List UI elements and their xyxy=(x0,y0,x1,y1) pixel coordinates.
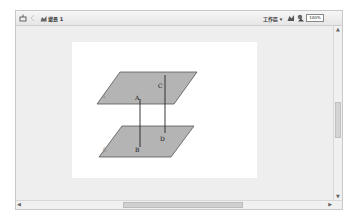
vertical-scroll-thumb[interactable] xyxy=(335,102,341,138)
plane-beta xyxy=(99,126,194,157)
point-d-label: D xyxy=(160,135,165,142)
scene-label: 場景 1 xyxy=(48,15,63,22)
point-a-label: A xyxy=(134,94,140,101)
stage[interactable]: α β A B C D xyxy=(72,42,257,178)
vertical-scrollbar[interactable]: ▲ ▼ xyxy=(333,26,342,200)
zoom-input[interactable]: 100% xyxy=(306,14,324,22)
scroll-left-arrow[interactable]: ◀ xyxy=(17,201,21,208)
beta-label: β xyxy=(103,146,107,154)
workspace-label: 工作區 ▾ xyxy=(263,15,282,22)
arrow-left-icon[interactable] xyxy=(30,13,36,23)
stage-area[interactable]: α β A B C D xyxy=(16,26,333,200)
point-c-label: C xyxy=(158,82,163,89)
edit-bar: 場景 1 工作區 ▾ 100% xyxy=(16,11,342,26)
point-b-label: B xyxy=(135,146,140,153)
workspace-menu[interactable]: 工作區 ▾ xyxy=(263,13,282,23)
geometry-figure: α β A B C D xyxy=(72,42,257,178)
zoom-control[interactable]: 100% xyxy=(306,13,324,23)
scroll-right-arrow[interactable]: ▶ xyxy=(328,201,332,208)
scroll-down-arrow[interactable]: ▼ xyxy=(336,193,340,200)
plane-alpha xyxy=(97,72,197,104)
edit-scene-icon[interactable] xyxy=(297,13,305,23)
edit-symbol-icon[interactable] xyxy=(287,13,295,23)
flash-editor-window: 場景 1 工作區 ▾ 100% α β xyxy=(15,10,343,210)
scene-icon xyxy=(40,15,47,22)
scroll-up-arrow[interactable]: ▲ xyxy=(336,26,340,33)
scene-breadcrumb[interactable]: 場景 1 xyxy=(40,13,63,23)
horizontal-scroll-thumb[interactable] xyxy=(123,202,243,208)
horizontal-scrollbar[interactable]: ◀ ▶ xyxy=(16,200,342,209)
insert-icon[interactable] xyxy=(19,13,27,23)
